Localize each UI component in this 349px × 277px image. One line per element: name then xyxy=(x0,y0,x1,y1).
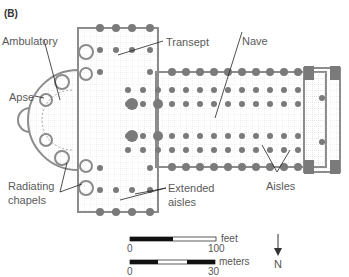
label-extended-aisles-line1: Extended xyxy=(168,182,214,194)
north-arrow-icon xyxy=(274,234,282,256)
label-nave: Nave xyxy=(242,35,268,47)
label-ambulatory: Ambulatory xyxy=(2,35,58,47)
label-extended-aisles-line2: aisles xyxy=(168,196,196,208)
label-apse: Apse xyxy=(9,91,34,103)
label-radiating-chapels-line1: Radiating xyxy=(8,180,54,192)
label-transept: Transept xyxy=(166,36,209,48)
scale-meters-start: 0 xyxy=(127,266,133,277)
scale-bar-feet xyxy=(130,237,216,241)
scale-bar-meters xyxy=(130,260,215,264)
north-label: N xyxy=(274,258,282,270)
label-aisles: Aisles xyxy=(266,180,295,192)
scale-feet-start: 0 xyxy=(127,243,133,254)
scale-meters-unit: meters xyxy=(219,256,250,267)
scale-feet-end: 100 xyxy=(208,243,225,254)
label-radiating-chapels-line2: chapels xyxy=(8,194,46,206)
scale-meters-end: 30 xyxy=(208,266,219,277)
